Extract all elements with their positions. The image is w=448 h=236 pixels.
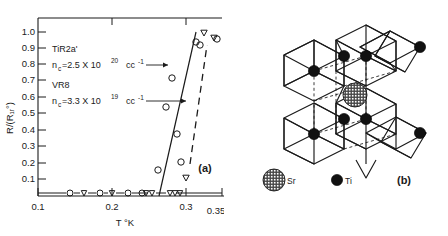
sample1-nc-value: =2.5 X 10 — [62, 60, 101, 70]
annotation-sample1-name: TiR2a' — [52, 44, 78, 54]
sample1-units-exponent: -1 — [138, 58, 144, 65]
annotation-sample1-density: n c =2.5 X 10 20 cc -1 — [52, 57, 144, 72]
x-axis-title: T °K — [116, 217, 135, 228]
annotation-arrow-to-solid-line — [146, 62, 168, 67]
sample1-nc-exponent: 20 — [111, 57, 119, 64]
panel-a-label: (a) — [198, 162, 212, 174]
y-tick-0.4: 0.4 — [22, 124, 35, 135]
y-tick-0.5: 0.5 — [22, 107, 35, 118]
y-tick-0.7: 0.7 — [22, 74, 35, 85]
legend-sr-label: Sr — [287, 176, 296, 186]
sample2-nc-n: n — [52, 96, 57, 106]
y-axis-ticks — [38, 32, 46, 179]
sample2-units-exponent: -1 — [138, 94, 144, 101]
legend-ti-swatch — [331, 174, 342, 185]
perovskite-octahedra-network — [284, 25, 426, 178]
y-tick-0.6: 0.6 — [22, 91, 35, 102]
x-axis-tick-labels: 0.1 0.2 0.3 0.35 — [31, 201, 224, 216]
sample2-nc-value: =3.3 X 10 — [62, 96, 101, 106]
panel-a-resistance-plot: 1.0 0.9 0.8 0.7 0.6 0.5 0.4 0.3 0.2 0.1 … — [0, 0, 224, 236]
sample1-units: cc — [126, 60, 136, 70]
x-tick-0.1: 0.1 — [31, 201, 44, 212]
y-tick-1.0: 1.0 — [22, 26, 35, 37]
sample2-nc-exponent: 19 — [111, 93, 119, 100]
x-tick-0.3: 0.3 — [179, 201, 192, 212]
series-vr8-points — [183, 30, 217, 181]
y-axis-title: R/(R₁ᵣ°) — [4, 102, 15, 134]
figure-root: 1.0 0.9 0.8 0.7 0.6 0.5 0.4 0.3 0.2 0.1 … — [0, 0, 448, 236]
sr-atom — [343, 83, 367, 107]
series-tir2a-points — [155, 36, 220, 173]
x-tick-0.2: 0.2 — [105, 201, 118, 212]
y-tick-0.2: 0.2 — [22, 157, 35, 168]
plot-svg: 1.0 0.9 0.8 0.7 0.6 0.5 0.4 0.3 0.2 0.1 … — [0, 0, 224, 236]
fit-line-dashed — [190, 45, 207, 164]
x-tick-0.35: 0.35 — [207, 205, 224, 216]
legend-sr-swatch — [263, 169, 285, 191]
crystal-svg: Sr Ti (b) — [224, 0, 448, 236]
panel-b-crystal-structure: Sr Ti (b) — [224, 0, 448, 236]
y-axis-tick-labels: 1.0 0.9 0.8 0.7 0.6 0.5 0.4 0.3 0.2 0.1 — [22, 26, 35, 184]
sample1-nc-n: n — [52, 60, 57, 70]
sample2-units: cc — [126, 96, 136, 106]
y-tick-0.8: 0.8 — [22, 58, 35, 69]
panel-b-label: (b) — [397, 174, 411, 186]
crystal-legend: Sr Ti — [263, 169, 352, 191]
annotation-sample2-density: n c =3.3 X 10 19 cc -1 — [52, 93, 144, 108]
legend-ti-label: Ti — [345, 176, 352, 186]
annotation-sample2-name: VR8 — [52, 80, 70, 90]
fit-line-solid — [159, 32, 196, 196]
y-tick-0.3: 0.3 — [22, 140, 35, 151]
y-tick-0.9: 0.9 — [22, 42, 35, 53]
y-tick-0.1: 0.1 — [22, 173, 35, 184]
